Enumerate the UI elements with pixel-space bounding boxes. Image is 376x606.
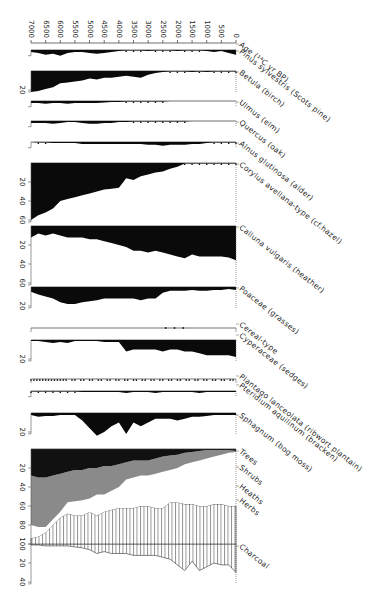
presence-dot xyxy=(133,122,134,123)
presence-dot xyxy=(229,379,230,381)
percent-tick-label: 20 xyxy=(18,302,26,311)
panel-area xyxy=(31,413,236,436)
presence-dot xyxy=(109,379,110,381)
percent-tick-label: 80 xyxy=(18,521,26,530)
presence-dot xyxy=(169,122,170,123)
presence-dot xyxy=(174,327,176,329)
presence-dot xyxy=(74,392,75,393)
composite-panel: 20406080100 xyxy=(18,449,236,551)
presence-dot xyxy=(162,51,163,52)
presence-dot xyxy=(162,379,163,381)
presence-dot xyxy=(169,51,170,52)
presence-dot xyxy=(42,379,43,381)
presence-dot xyxy=(150,379,151,381)
percent-tick-label: 40 xyxy=(18,578,26,587)
presence-dot xyxy=(197,379,198,381)
presence-dot xyxy=(221,143,222,144)
panel-area xyxy=(31,71,236,92)
percent-tick-label: 60 xyxy=(18,216,26,225)
presence-dot xyxy=(124,379,125,381)
panel-calluna: 204060 xyxy=(18,226,236,287)
age-axis: 7000650060005500500045004000350030002500… xyxy=(27,20,240,43)
presence-dot xyxy=(221,379,222,381)
percent-tick-label: 40 xyxy=(18,260,26,269)
presence-dot xyxy=(215,379,216,381)
presence-dot xyxy=(184,51,185,52)
presence-dot xyxy=(54,379,55,381)
presence-dot xyxy=(63,379,64,381)
percent-tick-label: 20 xyxy=(18,428,26,437)
panel-poaceae: 20 xyxy=(18,287,236,310)
presence-dot xyxy=(60,392,61,393)
presence-dot xyxy=(74,379,75,381)
presence-dot xyxy=(83,379,84,381)
panel-alnus xyxy=(28,142,237,148)
presence-dot xyxy=(142,379,143,381)
percent-tick-label: 20 xyxy=(18,241,26,250)
presence-dot xyxy=(92,379,93,381)
presence-dot xyxy=(199,72,200,73)
presence-dot xyxy=(140,51,141,52)
presence-dot xyxy=(38,392,39,393)
presence-dot xyxy=(71,379,72,381)
presence-dot xyxy=(147,122,148,123)
age-tick-label: 5500 xyxy=(71,20,79,38)
presence-dot xyxy=(45,392,46,393)
panel-cyperaceae: 20 xyxy=(18,340,236,363)
presence-dot xyxy=(136,379,137,381)
presence-dot xyxy=(228,72,229,73)
presence-dot xyxy=(203,379,204,381)
presence-dot xyxy=(165,327,167,329)
presence-dot xyxy=(168,379,169,381)
age-tick-label: 2000 xyxy=(174,20,182,38)
panel-area xyxy=(31,287,236,304)
presence-dot xyxy=(206,379,207,381)
taxon-label: Calluna vulgaris (heather) xyxy=(238,223,327,295)
pollen-diagram: 7000650060005500500045004000350030002500… xyxy=(0,0,376,606)
panel-area xyxy=(31,544,236,573)
presence-dot xyxy=(48,379,49,381)
percent-tick-label: 40 xyxy=(18,197,26,206)
presence-dot xyxy=(188,379,189,381)
presence-dot xyxy=(159,379,160,381)
age-tick-label: 4500 xyxy=(100,20,108,38)
percent-tick-label: 20 xyxy=(18,559,26,568)
taxon-label: Trees xyxy=(237,446,260,467)
presence-dot xyxy=(30,392,31,393)
percent-tick-label: 100 xyxy=(18,537,26,550)
presence-dot xyxy=(180,379,181,381)
presence-dot xyxy=(36,379,37,381)
presence-dot xyxy=(133,102,134,103)
panel-charcoal: 2040 xyxy=(18,544,236,586)
presence-dot xyxy=(147,102,148,103)
presence-dot xyxy=(140,122,141,123)
presence-dot xyxy=(184,72,185,73)
presence-dot xyxy=(153,379,154,381)
presence-dot xyxy=(133,379,134,381)
age-tick-label: 500 xyxy=(217,25,225,38)
taxon-labels: Age (¹⁴C yr BP)Pinus sylvestris (Scots p… xyxy=(236,40,364,571)
presence-dot xyxy=(191,51,192,52)
presence-dot xyxy=(182,327,184,329)
age-tick-label: 0 xyxy=(232,34,240,38)
presence-dot xyxy=(39,379,40,381)
presence-dot xyxy=(228,164,229,165)
presence-dot xyxy=(101,379,102,381)
panel-plantago xyxy=(30,379,236,383)
presence-dot xyxy=(38,143,39,144)
presence-dot xyxy=(33,379,34,381)
presence-dot xyxy=(52,392,53,393)
presence-dot xyxy=(221,164,222,165)
presence-dot xyxy=(224,379,225,381)
presence-dot xyxy=(177,379,178,381)
presence-dot xyxy=(221,72,222,73)
percent-tick-label: 60 xyxy=(18,279,26,288)
age-tick-label: 1000 xyxy=(203,20,211,38)
panel-area xyxy=(31,391,236,393)
presence-dot xyxy=(232,379,233,381)
panel-area xyxy=(31,163,236,220)
presence-dot xyxy=(133,51,134,52)
age-tick-label: 3000 xyxy=(144,20,152,38)
presence-dot xyxy=(177,72,178,73)
presence-dot xyxy=(106,379,107,381)
